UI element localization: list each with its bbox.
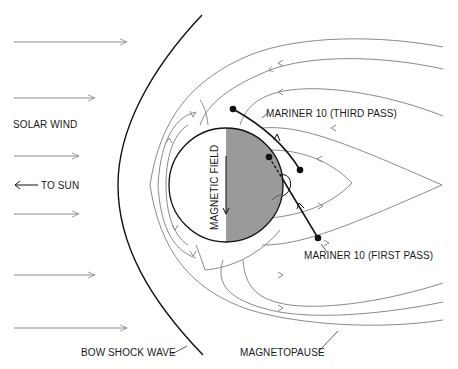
arrow-icon — [278, 272, 283, 278]
to-sun-arrow-icon — [15, 181, 38, 189]
solar-wind-label: SOLAR WIND — [13, 119, 77, 130]
arrow-icon — [190, 251, 196, 256]
trajectory-point-icon — [297, 167, 304, 174]
mariner-first-pass-label: MARINER 10 (FIRST PASS) — [304, 250, 433, 261]
trajectory-point-icon — [315, 235, 322, 242]
magnetic-field-label: MAGNETIC FIELD — [209, 145, 220, 230]
trajectory-point-icon — [266, 154, 273, 161]
arrow-icon — [278, 60, 283, 66]
arrow-icon — [278, 305, 283, 311]
magnetopause-label: MAGNETOPAUSE — [240, 347, 325, 358]
arrow-icon — [172, 225, 178, 230]
to-sun-label: TO SUN — [41, 180, 79, 191]
planet-night-side — [226, 128, 283, 242]
magnetosphere-diagram: MAGNETIC FIELD SOLAR WIND TO SUN MARINER… — [0, 0, 458, 369]
trajectory-point-icon — [230, 106, 237, 113]
arrow-icon — [317, 156, 322, 162]
arrow-icon — [331, 125, 336, 131]
bow-shock-label: BOW SHOCK WAVE — [81, 347, 176, 358]
mariner-third-pass-label: MARINER 10 (THIRD PASS) — [266, 108, 397, 119]
arrow-icon — [324, 240, 329, 246]
